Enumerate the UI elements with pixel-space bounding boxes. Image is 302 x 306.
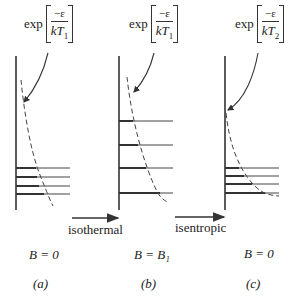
boltzmann-curve xyxy=(127,77,167,202)
panel-a-graph xyxy=(16,53,70,210)
formula-a: exp −ε kT1 xyxy=(24,5,73,43)
caption-b: (b) xyxy=(141,276,156,292)
formula-prefix: exp xyxy=(129,16,148,32)
formula-bracket: −ε kT1 xyxy=(46,5,74,43)
formula-b: exp −ε kT1 xyxy=(129,5,178,43)
caption-c: (c) xyxy=(246,276,260,292)
isentropic-label: isentropic xyxy=(175,220,226,236)
pointer-arrow xyxy=(228,53,258,110)
formula-denominator: kT xyxy=(156,23,169,38)
field-label-b: B = B₁ xyxy=(134,247,170,263)
formula-subscript: 1 xyxy=(64,30,69,40)
caption-a: (a) xyxy=(33,276,48,292)
boltzmann-curve xyxy=(21,80,53,206)
panel-b-graph xyxy=(119,53,173,210)
formula-prefix: exp xyxy=(235,16,254,32)
formula-subscript: 2 xyxy=(275,30,280,40)
field-label-a: B = 0 xyxy=(29,247,59,263)
field-label-c: B = 0 xyxy=(244,246,274,262)
formula-bracket: −ε kT2 xyxy=(257,5,285,43)
formula-denominator: kT xyxy=(262,23,275,38)
pointer-arrow xyxy=(24,53,48,102)
formula-denominator: kT xyxy=(51,23,64,38)
formula-bracket: −ε kT1 xyxy=(151,5,179,43)
isothermal-label: isothermal xyxy=(68,222,123,238)
formula-numerator: −ε xyxy=(156,8,174,22)
formula-numerator: −ε xyxy=(51,8,69,22)
panel-c-graph xyxy=(225,53,279,210)
formula-subscript: 1 xyxy=(169,30,174,40)
pointer-arrow xyxy=(134,53,154,92)
formula-prefix: exp xyxy=(24,16,43,32)
formula-c: exp −ε kT2 xyxy=(235,5,284,43)
formula-numerator: −ε xyxy=(262,8,280,22)
